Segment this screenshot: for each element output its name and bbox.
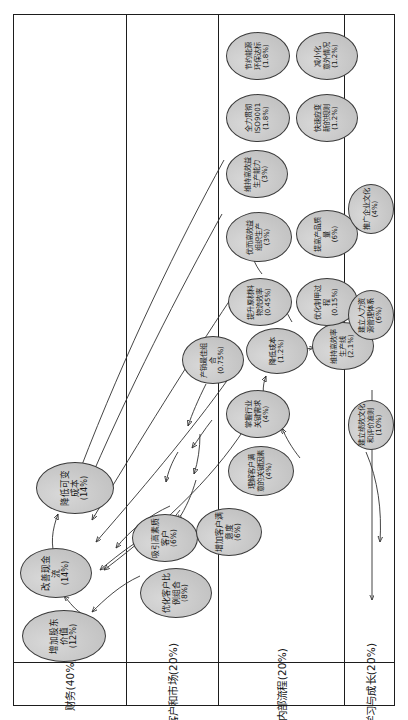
node-label: 建立绩效文化 和评价准则 — [358, 404, 375, 446]
node-build-hr-management-system[interactable]: 建立人力资 源管理体系 (6%) — [348, 290, 394, 340]
node-improve-material-logistics[interactable]: 提升原材料 物流效率 (0.45%) — [228, 278, 292, 326]
node-label: 建立人力资 源管理体系 — [358, 298, 375, 333]
node-grasp-industry-key-demand[interactable]: 掌握行业 关键需求 (4%) — [226, 390, 290, 438]
node-value: (0.75%) — [217, 346, 225, 374]
node-label: 快速应变 新的规则 — [314, 104, 331, 132]
node-value: (1.2%) — [277, 339, 285, 362]
node-label: 掌握行业 关键需求 — [245, 400, 262, 428]
node-save-energy-meet-environmental-standards[interactable]: 节约能源 环保达标 (1.8%) — [226, 32, 290, 80]
node-value: (6%) — [170, 529, 179, 547]
node-value: (6%) — [331, 226, 339, 243]
node-label: 优化制甲过程 — [314, 282, 331, 322]
node-optimal-production-sales-mix[interactable]: 产销最佳组合 (0.75%) — [182, 336, 244, 384]
node-attract-quality-customers[interactable]: 吸引高素质客户 (6%) — [132, 514, 198, 562]
node-label: 维持高效益 生产能力 — [244, 157, 261, 192]
node-understand-satisfaction-drivers[interactable]: 理解客户满 意的关键因素 (4%) — [228, 446, 294, 496]
node-label: 增加客户满意度 — [215, 512, 234, 552]
node-value: (0.45%) — [264, 288, 272, 316]
node-value: (1.8%) — [262, 44, 270, 67]
node-maintain-efficient-capacity[interactable]: 维持高效益 生产能力 (3%) — [226, 150, 288, 198]
node-value: (6%) — [375, 307, 383, 324]
node-increase-shareholder-value[interactable]: 增加股东价值 (12%) — [22, 610, 106, 662]
node-label: 增加股东价值 — [49, 614, 69, 658]
node-value: (3%) — [261, 166, 269, 183]
rotated-page-container: 财务(40%) 客户和市场(20%) 内部流程(20%) 学习与成长(20%) — [0, 0, 408, 720]
node-value: (1.8%) — [262, 106, 270, 129]
node-value: (2.1%) — [347, 334, 355, 357]
node-label: 减小化 意外情况 — [314, 42, 331, 70]
node-value: (1.2%) — [331, 44, 339, 67]
node-increase-customer-satisfaction[interactable]: 增加客户满意度 (6%) — [196, 508, 262, 556]
node-adapt-to-new-regulations[interactable]: 快速应变 新的规则 (1.2%) — [296, 94, 358, 142]
node-improve-cash-flow[interactable]: 改善现金流 (14%) — [20, 548, 92, 598]
node-value: (4%) — [265, 463, 273, 480]
node-label: 全力贯彻 ISO9001 — [245, 103, 262, 134]
node-label: 节约能源 环保达标 — [245, 42, 262, 70]
node-implement-iso9001[interactable]: 全力贯彻 ISO9001 (1.8%) — [226, 94, 290, 142]
node-value: (14%) — [61, 561, 71, 586]
node-build-performance-culture[interactable]: 建立绩效文化 和评价准则 (10%) — [348, 400, 394, 450]
node-label: 改善现金流 — [41, 552, 61, 594]
node-label: 产销最佳组合 — [200, 340, 217, 380]
node-value: (12%) — [69, 624, 79, 649]
node-promote-corporate-culture[interactable]: 推广企业文化 (4%) — [348, 184, 394, 234]
node-organize-efficient-production[interactable]: 优而高效益 组织生产 (3%) — [226, 212, 292, 262]
node-value: (0.15%) — [331, 288, 339, 316]
node-label: 降低可变成本 — [60, 466, 80, 510]
node-value: (1.2%) — [331, 106, 339, 129]
strategy-map: 财务(40%) 客户和市场(20%) 内部流程(20%) 学习与成长(20%) — [0, 0, 408, 720]
node-optimize-customer-mix[interactable]: 优化客户比例组合 (8%) — [140, 568, 212, 618]
node-label: 降低成本 — [269, 337, 277, 365]
node-label: 提高产品质量 — [314, 214, 331, 254]
node-label: 理解客户满 意的关键因素 — [248, 450, 265, 492]
node-label: 推广企业文化 — [363, 188, 371, 230]
node-value: (4%) — [371, 201, 379, 218]
node-reduce-variable-cost[interactable]: 降低可变成本 (14%) — [36, 462, 114, 514]
node-value: (4%) — [262, 406, 270, 423]
node-label: 优化客户比例组合 — [162, 572, 181, 614]
node-value: (6%) — [234, 523, 243, 541]
node-minimize-unexpected-incidents[interactable]: 减小化 意外情况 (1.2%) — [296, 32, 358, 80]
node-value: (14%) — [80, 476, 90, 501]
node-value: (10%) — [375, 414, 383, 435]
node-value: (3%) — [263, 229, 271, 246]
node-label: 提升原材料 物流效率 — [247, 285, 264, 320]
node-label: 优而高效益 组织生产 — [246, 220, 263, 255]
node-reduce-cost[interactable]: 降低成本 (1.2%) — [246, 328, 308, 374]
node-value: (8%) — [181, 584, 190, 602]
node-label: 维持高效率 生产线 — [330, 329, 347, 364]
node-label: 吸引高素质客户 — [151, 518, 170, 558]
